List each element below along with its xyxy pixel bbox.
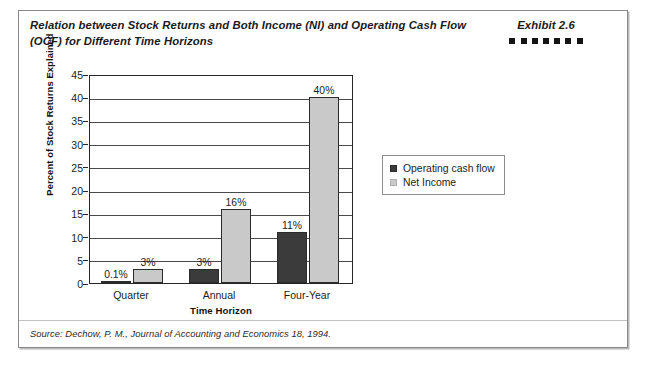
bar-operating-cash-flow (277, 232, 307, 283)
legend-item-net-income: Net Income (390, 175, 495, 189)
square-bullet-icon (577, 38, 583, 44)
square-bullet-icon (532, 38, 538, 44)
y-axis-tick-label: 45 (53, 69, 83, 81)
exhibit-dot-row (481, 38, 611, 44)
bar-chart: Percent of Stock Returns Explained 05101… (19, 59, 629, 311)
legend-item-operating-cash-flow: Operating cash flow (390, 161, 495, 175)
exhibit-frame: Relation between Stock Returns and Both … (18, 10, 628, 348)
square-bullet-icon (565, 38, 571, 44)
legend-swatch-icon-operating-cash-flow (390, 165, 397, 172)
square-bullet-icon (543, 38, 549, 44)
square-bullet-icon (509, 38, 515, 44)
y-axis-tick-label: 35 (53, 115, 83, 127)
bar-net-income (133, 269, 163, 283)
y-axis-tick-mark (83, 284, 88, 285)
source-divider (19, 320, 627, 321)
x-axis-tick-label: Quarter (80, 289, 182, 301)
legend-label-net-income: Net Income (403, 177, 456, 188)
chart-legend: Operating cash flow Net Income (382, 155, 505, 195)
y-axis-tick-mark (83, 237, 88, 238)
y-axis-tick-mark (83, 144, 88, 145)
y-axis-tick-label: 30 (53, 139, 83, 151)
y-axis-tick-mark (83, 121, 88, 122)
square-bullet-icon (521, 38, 527, 44)
y-axis-tick-mark (83, 98, 88, 99)
exhibit-tag: Exhibit 2.6 (481, 19, 611, 44)
y-axis-tick-mark (83, 260, 88, 261)
y-axis-tick-labels: 051015202530354045 (47, 75, 83, 284)
y-axis-tick-mark (83, 191, 88, 192)
bar-value-label: 3% (122, 257, 174, 268)
x-axis-tick-label: Annual (168, 289, 270, 301)
y-axis-tick-label: 10 (53, 232, 83, 244)
exhibit-header: Relation between Stock Returns and Both … (19, 11, 627, 59)
y-axis-tick-label: 40 (53, 92, 83, 104)
legend-label-operating-cash-flow: Operating cash flow (403, 163, 495, 174)
bar-net-income (221, 209, 251, 283)
y-axis-tick-mark (83, 167, 88, 168)
y-axis-tick-mark (83, 214, 88, 215)
y-axis-tick-label: 5 (53, 255, 83, 267)
y-axis-tick-label: 15 (53, 208, 83, 220)
exhibit-number: Exhibit 2.6 (481, 19, 611, 31)
exhibit-title: Relation between Stock Returns and Both … (30, 18, 500, 49)
source-note: Source: Dechow, P. M., Journal of Accoun… (30, 328, 331, 339)
bar-value-label: 16% (210, 197, 262, 208)
bar-net-income (309, 97, 339, 283)
exhibit-title-line-2: (OCF) for Different Time Horizons (30, 34, 500, 50)
x-axis-title: Time Horizon (89, 305, 353, 316)
bar-value-label: 40% (298, 85, 350, 96)
y-axis-tick-label: 25 (53, 162, 83, 174)
plot-area: 0.1%3%3%16%11%40% (89, 75, 353, 284)
y-axis-tick-label: 0 (53, 278, 83, 290)
bar-operating-cash-flow (101, 281, 131, 284)
y-axis-tick-label: 20 (53, 185, 83, 197)
y-axis-tick-mark (83, 75, 88, 76)
exhibit-title-line-1: Relation between Stock Returns and Both … (30, 18, 500, 34)
legend-swatch-icon-net-income (390, 179, 397, 186)
x-axis-tick-label: Four-Year (256, 289, 358, 301)
bar-operating-cash-flow (189, 269, 219, 283)
square-bullet-icon (554, 38, 560, 44)
